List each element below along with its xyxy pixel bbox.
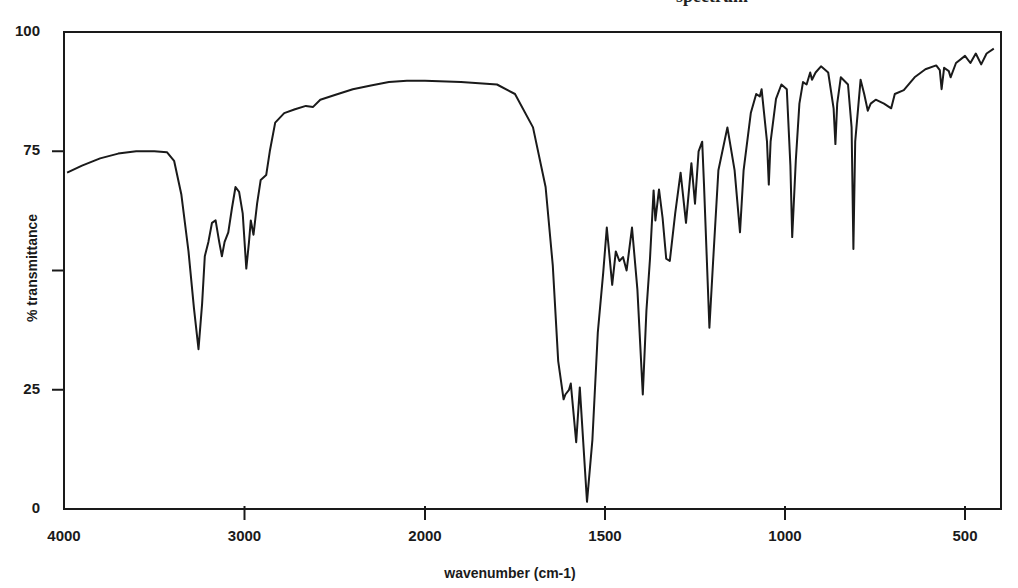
x-tick-label: 3000 <box>215 527 275 544</box>
x-tick-label: 2000 <box>395 527 455 544</box>
x-tick-label: 1000 <box>755 527 815 544</box>
x-tick-label: 500 <box>935 527 995 544</box>
y-tick-label: 100 <box>0 22 40 39</box>
y-tick-label: 25 <box>0 380 40 397</box>
x-axis-title: wavenumber (cm-1) <box>380 565 640 581</box>
x-tick-label: 4000 <box>34 527 94 544</box>
x-tick-label: 1500 <box>575 527 635 544</box>
y-tick-label: 75 <box>0 141 40 158</box>
y-axis-ticks <box>52 151 64 390</box>
y-tick-label: 0 <box>0 499 40 516</box>
spectrum-plot <box>0 0 1018 588</box>
y-axis-title: % transmittance <box>24 188 40 348</box>
spectrum-line <box>67 49 994 502</box>
